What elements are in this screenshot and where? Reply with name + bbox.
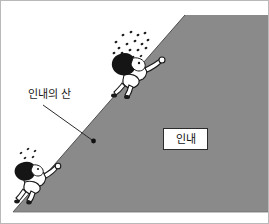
scene-graphic	[0, 0, 269, 224]
mountain-label: 인내의 산	[28, 89, 72, 100]
patience-label-box: 인내	[163, 128, 208, 150]
callout-dot-icon	[91, 139, 96, 144]
upper-climber-eye	[138, 62, 140, 64]
lower-climber-foot-front	[26, 201, 32, 205]
upper-climber-foot-rear	[111, 94, 117, 98]
patience-label-text: 인내	[176, 134, 196, 145]
lower-climber-foot-rear	[14, 200, 20, 204]
illustration-canvas: 인내의 산 인내	[0, 0, 269, 224]
lower-climber-hand	[55, 163, 61, 169]
upper-climber-hand	[159, 57, 165, 63]
upper-climber-foot-front	[124, 95, 130, 99]
lower-climber-eye	[37, 168, 39, 170]
